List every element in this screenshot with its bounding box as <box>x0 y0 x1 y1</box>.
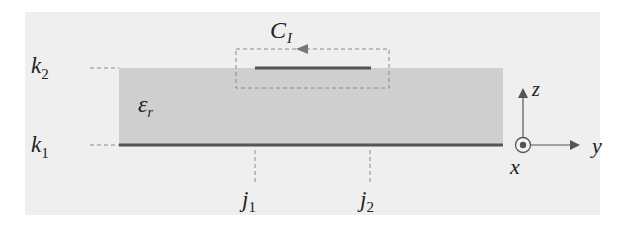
contour-label: CI <box>270 17 293 46</box>
x-axis-label: x <box>509 154 520 179</box>
z-axis-label: z <box>531 78 540 100</box>
contour-direction-arrow-icon <box>296 44 308 54</box>
y-axis-label: y <box>590 133 602 158</box>
j1-label: j1 <box>239 187 256 215</box>
k2-label: k2 <box>31 53 49 82</box>
j2-label: j2 <box>357 187 374 215</box>
k1-label: k1 <box>31 132 49 161</box>
microstrip-diagram: CI k2 k1 εr j1 j2 z y x <box>0 0 634 233</box>
dielectric-slab <box>119 68 503 145</box>
x-axis-dot <box>520 142 526 148</box>
